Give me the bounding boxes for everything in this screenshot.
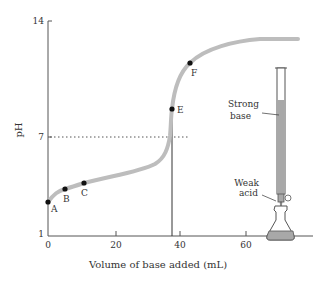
y-tick-label-7: 7 <box>38 132 44 142</box>
y-tick-label-14: 14 <box>33 16 45 26</box>
strong-base-label-line2: base <box>230 111 251 121</box>
point-b <box>62 186 67 191</box>
x-tick-label-0: 0 <box>45 240 51 250</box>
x-tick-label-40: 40 <box>174 240 186 250</box>
y-axis-label: pH <box>13 122 24 137</box>
point-label-f: F <box>191 68 197 78</box>
burette-illustration <box>275 68 291 208</box>
x-tick-label-20: 20 <box>110 240 122 250</box>
weak-acid-label-line2: acid <box>239 188 258 198</box>
point-c <box>81 180 86 185</box>
point-e <box>169 106 174 111</box>
strong-base-label-line1: Strong <box>228 99 259 109</box>
point-f <box>187 60 192 65</box>
flask-illustration <box>267 206 294 240</box>
point-label-c: C <box>81 188 88 198</box>
point-label-b: B <box>63 194 70 204</box>
point-a <box>45 199 50 204</box>
titration-curve <box>48 39 298 202</box>
strong-base-pointer <box>262 113 279 115</box>
x-axis-label: Volume of base added (mL) <box>88 259 227 270</box>
y-tick-label-1: 1 <box>38 229 44 239</box>
titration-chart: 14 7 1 0 20 40 60 Volume of base added (… <box>0 0 331 283</box>
x-tick-label-60: 60 <box>240 240 252 250</box>
weak-acid-label-line1: Weak <box>234 178 259 188</box>
weak-acid-pointer <box>262 195 276 201</box>
point-label-e: E <box>177 105 184 115</box>
point-label-a: A <box>50 204 58 214</box>
